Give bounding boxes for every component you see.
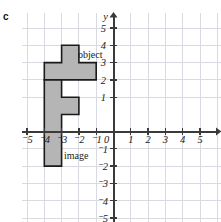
x-tick-label: 1	[128, 134, 133, 145]
y-tick-label: ⁻5	[97, 213, 108, 222]
x-axis-tick-labels: ⁻5 ⁻4 ⁻3 ⁻2 ⁻1 1 2 3 4 5	[21, 134, 202, 145]
origin-label: 0	[104, 134, 110, 145]
y-tick-label: 1	[101, 92, 106, 103]
object-label: object	[78, 49, 103, 60]
y-axis-name: y	[102, 11, 108, 22]
x-tick-label: 4	[180, 134, 186, 145]
y-tick-label: ⁻4	[97, 196, 109, 207]
y-axis	[110, 12, 118, 222]
y-tick-label: ⁻1	[97, 144, 108, 155]
y-tick-label: ⁻3	[97, 178, 108, 189]
image-label: image	[64, 150, 89, 161]
y-tick-label: ⁻2	[97, 161, 109, 172]
coordinate-grid-figure: ⁻5 ⁻4 ⁻3 ⁻2 ⁻1 1 2 3 4 5 5 4 3 2 1 ⁻1 ⁻2…	[0, 0, 221, 222]
x-tick-label: ⁻4	[39, 134, 51, 145]
x-tick-label: ⁻5	[21, 134, 32, 145]
x-tick-label: ⁻3	[56, 134, 67, 145]
x-tick-label: 3	[162, 134, 168, 145]
x-tick-label: 5	[197, 134, 202, 145]
y-tick-label: 2	[101, 75, 107, 86]
x-tick-label: ⁻2	[73, 134, 85, 145]
y-tick-label: 5	[101, 23, 106, 34]
x-tick-label: 2	[145, 134, 151, 145]
